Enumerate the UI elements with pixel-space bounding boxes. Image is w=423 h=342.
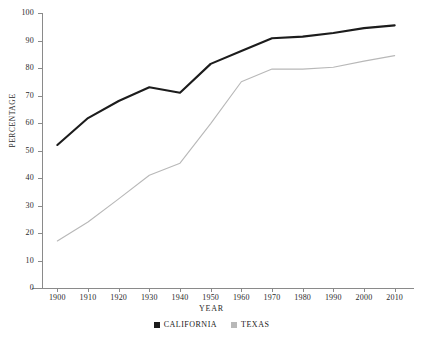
y-tick-label-60: 60 [0,119,34,127]
x-tick-2010 [395,288,396,292]
y-tick-label-30: 30 [0,202,34,210]
x-tick-2000 [364,288,365,292]
series-lines [42,13,410,288]
series-line-california [57,25,394,145]
x-tick-1910 [88,288,89,292]
plot-area [42,13,410,288]
y-tick-label-100: 100 [0,9,34,17]
y-tick-label-90: 90 [0,37,34,45]
series-line-texas [57,56,394,241]
x-tick-1900 [57,288,58,292]
x-tick-1990 [333,288,334,292]
x-tick-1930 [149,288,150,292]
y-tick-label-10: 10 [0,257,34,265]
y-tick-label-50: 50 [0,147,34,155]
x-tick-1920 [119,288,120,292]
chart-legend: CALIFORNIATEXAS [0,320,423,329]
chart-figure: 0102030405060708090100 19001910192019301… [0,0,423,342]
x-tick-1940 [180,288,181,292]
x-tick-label-2010: 2010 [375,293,415,302]
y-tick-label-80: 80 [0,64,34,72]
legend-entry-texas[interactable]: TEXAS [231,320,269,329]
x-tick-1980 [303,288,304,292]
legend-label-california: CALIFORNIA [164,320,217,329]
legend-entry-california[interactable]: CALIFORNIA [154,320,217,329]
legend-swatch-icon-california [154,322,160,328]
x-tick-1950 [211,288,212,292]
y-tick-label-0: 0 [0,284,34,292]
y-tick-label-40: 40 [0,174,34,182]
legend-label-texas: TEXAS [241,320,269,329]
y-tick-label-70: 70 [0,92,34,100]
x-axis-title: YEAR [0,304,423,313]
y-tick-0 [38,288,42,289]
x-tick-1960 [241,288,242,292]
y-axis-title: PERCENTAGE [8,73,17,169]
x-tick-1970 [272,288,273,292]
x-axis-line [32,288,414,289]
y-tick-label-20: 20 [0,229,34,237]
legend-swatch-icon-texas [231,322,237,328]
